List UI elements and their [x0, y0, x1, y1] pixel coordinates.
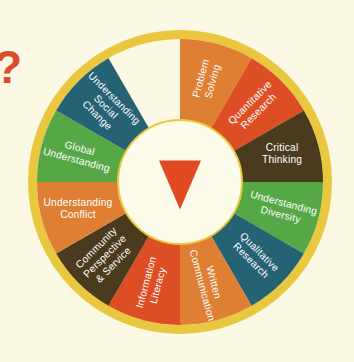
segment-label-line: Thinking: [262, 154, 302, 165]
segment-label-line: Conflict: [60, 209, 96, 220]
diagram-canvas: ? ProblemSolvingQuantitativeResearchCrit…: [0, 0, 354, 362]
segment-label: CriticalThinking: [262, 142, 302, 165]
segment-label-line: Critical: [266, 142, 299, 153]
segment-label-line: Understanding: [44, 197, 113, 208]
question-mark-decoration: ?: [0, 44, 21, 90]
learning-outcomes-wheel: ProblemSolvingQuantitativeResearchCritic…: [0, 0, 354, 362]
